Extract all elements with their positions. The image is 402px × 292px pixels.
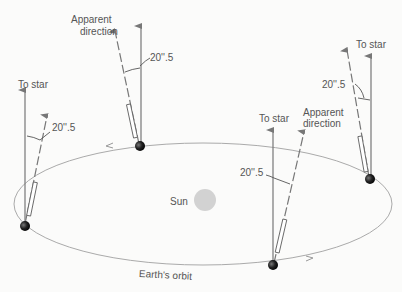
apparent-label-top-2: direction — [80, 26, 118, 37]
angle-label-top: 20''.5 — [150, 52, 173, 63]
earth-icon — [365, 174, 375, 184]
diagram-graphics — [0, 0, 402, 292]
orbit-arrow-icon — [306, 256, 313, 261]
to-star-label-bottom: To star — [259, 113, 289, 124]
sun-label: Sun — [170, 196, 188, 207]
earth-position-right — [347, 50, 375, 184]
earth-position-top — [115, 26, 150, 151]
sun-icon — [194, 189, 216, 211]
apparent-label-bottom-1: Apparent — [303, 107, 344, 118]
aberration-diagram: To star 20''.5 Apparent direction 20''.5… — [0, 0, 402, 292]
to-star-label-right: To star — [356, 39, 386, 50]
earth-position-left — [20, 90, 50, 231]
angle-label-right: 20''.5 — [322, 79, 345, 90]
earth-icon — [268, 260, 278, 270]
earth-icon — [20, 221, 30, 231]
angle-label-left: 20''.5 — [52, 122, 75, 133]
angle-label-bottom: 20''.5 — [240, 167, 263, 178]
orbit-arrow-icon — [106, 143, 113, 148]
apparent-label-bottom-2: direction — [303, 118, 341, 129]
apparent-label-top-1: Apparent — [71, 14, 112, 25]
to-star-label-left: To star — [18, 79, 48, 90]
earth-icon — [135, 141, 145, 151]
